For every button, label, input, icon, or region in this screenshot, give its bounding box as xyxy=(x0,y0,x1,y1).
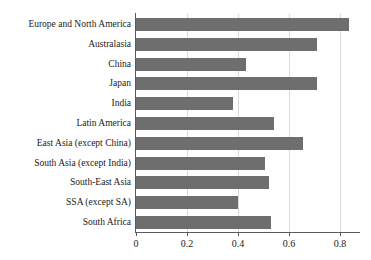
y-axis-tick-label: SSA (except SA) xyxy=(0,197,131,208)
bar xyxy=(136,18,349,31)
y-axis-tick-label: Latin America xyxy=(0,118,131,129)
x-axis-tick-mark xyxy=(238,232,239,236)
bar xyxy=(136,97,233,110)
x-axis-tick-label: 0.8 xyxy=(334,238,347,250)
bar xyxy=(136,38,317,51)
x-axis-tick-mark xyxy=(340,232,341,236)
x-axis-tick-mark xyxy=(187,232,188,236)
x-axis-tick-label: 0.2 xyxy=(181,238,194,250)
y-axis-tick-label: East Asia (except China) xyxy=(0,138,131,149)
y-axis-tick-label: India xyxy=(0,98,131,109)
bar xyxy=(136,58,246,71)
x-axis-tick-mark xyxy=(136,232,137,236)
x-axis-tick-label: 0.4 xyxy=(232,238,245,250)
y-axis-tick-label: Japan xyxy=(0,78,131,89)
bar xyxy=(136,176,269,189)
y-axis-tick-label: South-East Asia xyxy=(0,177,131,188)
bar xyxy=(136,196,238,209)
bar-chart: Europe and North AmericaAustralasiaChina… xyxy=(0,0,371,260)
x-axis-tick-label: 0.6 xyxy=(283,238,296,250)
bar xyxy=(136,77,317,90)
x-axis-line xyxy=(135,232,360,233)
bar xyxy=(136,157,265,170)
y-axis-tick-label: China xyxy=(0,59,131,70)
bar xyxy=(136,216,271,229)
bar xyxy=(136,117,274,130)
x-axis-tick-mark xyxy=(289,232,290,236)
gridline-0.8 xyxy=(340,14,341,232)
y-axis-tick-label: South Asia (except India) xyxy=(0,158,131,169)
y-axis-tick-label: South Africa xyxy=(0,217,131,228)
bar xyxy=(136,137,303,150)
x-axis-tick-label: 0 xyxy=(134,238,139,250)
y-axis-tick-label: Australasia xyxy=(0,39,131,50)
y-axis-tick-label: Europe and North America xyxy=(0,19,131,30)
